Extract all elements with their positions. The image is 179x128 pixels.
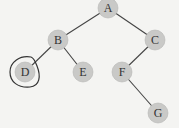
svg-text:D: D [21, 65, 30, 79]
svg-text:E: E [79, 65, 86, 79]
node-f: F [112, 62, 132, 82]
node-b: B [48, 30, 68, 50]
node-d: D [15, 62, 35, 82]
node-c: C [145, 30, 165, 50]
node-a: A [98, 0, 118, 18]
node-g: G [148, 103, 168, 123]
svg-text:C: C [151, 33, 159, 47]
svg-text:F: F [119, 65, 126, 79]
tree-diagram: A B C D E F G [0, 0, 179, 128]
node-e: E [73, 62, 93, 82]
edges [25, 8, 158, 113]
svg-text:A: A [104, 1, 113, 15]
svg-text:B: B [54, 33, 62, 47]
svg-text:G: G [154, 106, 163, 120]
